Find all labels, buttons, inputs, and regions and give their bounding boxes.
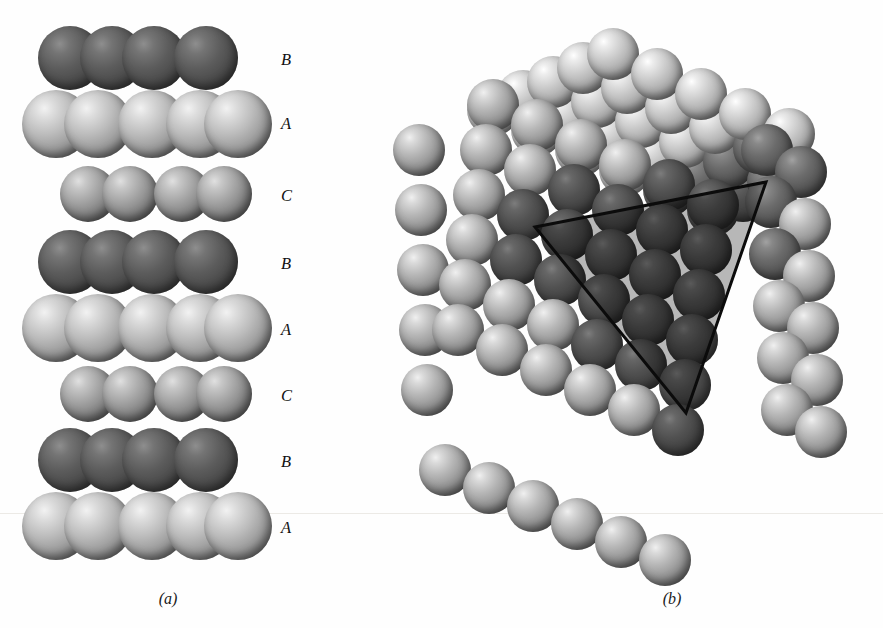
panel-b-fcc-block [395,0,883,628]
sphere-layer-c-2-1 [102,166,158,222]
layer-label-5-c: C [281,386,311,406]
sphere-layer-a-1-4 [204,90,272,158]
fcc-sphere-50 [673,269,725,321]
layer-label-4-a: A [281,320,311,340]
fcc-sphere-44 [680,224,732,276]
sphere-layer-b-6-3 [174,428,238,492]
figure-root: BACBACBA (a) (b) [0,0,883,628]
fcc-sphere-38 [687,179,739,231]
sphere-layer-c-2-3 [196,166,252,222]
layer-label-0-b: B [281,50,311,70]
fcc-sphere-70 [652,404,704,456]
fcc-sphere-32 [401,364,453,416]
layer-label-3-b: B [281,254,311,274]
sphere-layer-c-5-1 [102,366,158,422]
layer-label-1-a: A [281,114,311,134]
fcc-sphere-81 [795,406,847,458]
layer-label-6-b: B [281,452,311,472]
sphere-layer-b-3-3 [174,230,238,294]
sphere-layer-a-7-4 [204,492,272,560]
layer-label-2-c: C [281,186,311,206]
panel-a-stacking-column: BACBACBA [0,0,340,628]
sphere-layer-a-4-4 [204,294,272,362]
fcc-sphere-29 [395,184,447,236]
layer-label-7-a: A [281,518,311,538]
fcc-sphere-56 [666,314,718,366]
panel-b-caption: (b) [612,590,732,608]
sphere-layer-b-0-3 [174,26,238,90]
fcc-sphere-86 [639,534,691,586]
fcc-sphere-28 [393,124,445,176]
fcc-sphere-62 [659,359,711,411]
sphere-layer-c-5-3 [196,366,252,422]
panel-a-caption: (a) [108,590,228,608]
